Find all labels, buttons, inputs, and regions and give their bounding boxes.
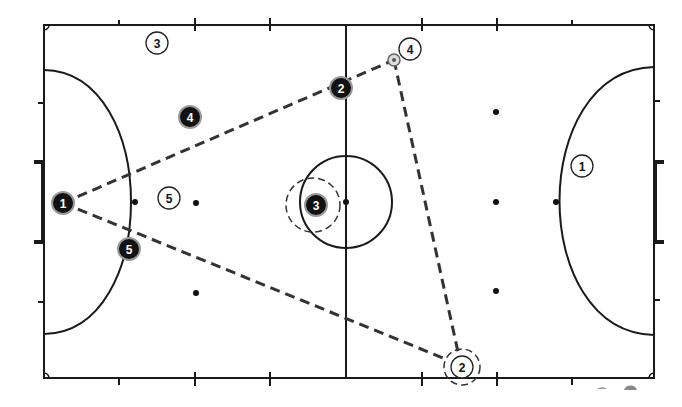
left-goal <box>34 162 43 242</box>
svg-text:4: 4 <box>187 111 194 125</box>
futsal-court: 12345 12345 <box>0 0 682 407</box>
player-dark-1: 1 <box>52 192 74 214</box>
team-light: 12345 <box>146 32 593 378</box>
svg-text:3: 3 <box>154 37 161 51</box>
svg-text:2: 2 <box>338 82 345 96</box>
team-dark: 12345 <box>52 77 352 260</box>
right-mark-bottom <box>493 288 499 294</box>
svg-text:4: 4 <box>407 43 414 57</box>
corner-artifacts <box>597 386 637 390</box>
svg-text:5: 5 <box>126 243 133 257</box>
player-dark-4: 4 <box>179 106 201 128</box>
right-second-penalty-spot <box>493 199 499 205</box>
svg-text:5: 5 <box>166 192 173 206</box>
svg-text:2: 2 <box>459 361 466 375</box>
svg-text:1: 1 <box>579 160 586 174</box>
player-light-3: 3 <box>146 32 168 54</box>
player-dark-3: 3 <box>305 194 327 216</box>
player-light-1: 1 <box>571 155 593 177</box>
svg-text:3: 3 <box>313 199 320 213</box>
ball-icon <box>388 54 400 66</box>
right-goal <box>655 162 664 242</box>
right-penalty-spot <box>553 199 559 205</box>
right-mark-top <box>493 109 499 115</box>
right-penalty-area <box>560 67 655 335</box>
left-mark-bottom <box>193 290 199 296</box>
left-second-penalty-spot <box>193 200 199 206</box>
pass-lines <box>63 60 458 360</box>
player-light-2: 2 <box>451 356 473 378</box>
center-spot <box>343 199 349 205</box>
pass-line <box>394 60 458 352</box>
player-dark-5: 5 <box>118 238 140 260</box>
player-light-5: 5 <box>158 187 180 209</box>
pass-line <box>63 203 448 360</box>
left-penalty-spot <box>132 199 138 205</box>
player-dark-2: 2 <box>330 77 352 99</box>
svg-text:1: 1 <box>60 197 67 211</box>
player-light-4: 4 <box>399 38 421 60</box>
